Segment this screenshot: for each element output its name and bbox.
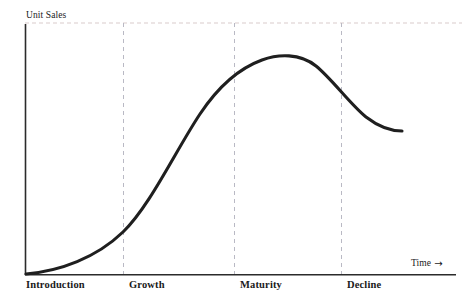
stage-label-maturity: Maturity — [240, 280, 282, 291]
product-life-cycle-curve — [26, 56, 402, 274]
y-axis-title: Unit Sales — [26, 11, 66, 21]
stage-label-growth: Growth — [129, 280, 165, 291]
stage-label-introduction: Introduction — [26, 280, 85, 291]
chart-plot-area — [0, 0, 466, 307]
stage-label-decline: Decline — [347, 280, 381, 291]
right-arrow-icon: → — [434, 259, 442, 269]
x-axis-title: Time → — [411, 259, 443, 269]
product-life-cycle-chart: Unit Sales Time → Introduction Growth Ma… — [0, 0, 466, 307]
x-axis-title-text: Time — [411, 259, 431, 269]
